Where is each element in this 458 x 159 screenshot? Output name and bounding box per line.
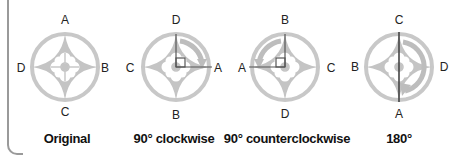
caption-90-clockwise: 90° clockwise [134, 131, 215, 146]
label-bottom: A [395, 107, 403, 121]
label-top: B [281, 13, 289, 27]
label-left: D [17, 61, 26, 75]
label-left: C [126, 61, 135, 75]
panel-90-counterclockwise: B C D A 90° counterclockwise [229, 0, 341, 159]
label-top: A [61, 13, 69, 27]
label-right: D [440, 60, 449, 74]
caption-90-counterclockwise: 90° counterclockwise [224, 131, 350, 146]
label-right: A [214, 61, 222, 75]
label-top: C [395, 13, 404, 27]
caption-original: Original [44, 131, 91, 146]
panel-original: A B C D Original [9, 0, 121, 159]
label-bottom: C [61, 105, 70, 119]
caption-180: 180° [386, 131, 412, 146]
label-left: A [238, 61, 246, 75]
label-bottom: B [172, 108, 180, 122]
panel-90-clockwise: D A B C 90° clockwise [120, 0, 232, 159]
panel-180: C D A B 180° [343, 0, 455, 159]
label-top: D [172, 13, 181, 27]
label-right: B [101, 61, 109, 75]
label-bottom: D [281, 107, 290, 121]
label-left: B [351, 60, 359, 74]
label-right: C [327, 61, 336, 75]
